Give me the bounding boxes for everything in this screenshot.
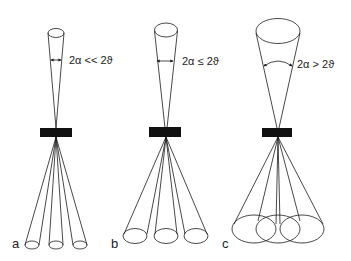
sample-block-b	[149, 127, 181, 137]
panel-label-b: b	[111, 236, 118, 251]
panel-label-c: c	[222, 236, 229, 251]
sample-block-c	[262, 128, 292, 137]
incident-beam-cone-b	[155, 23, 178, 128]
diffracted-cones-b	[123, 137, 208, 244]
incident-beam-cone-a	[48, 29, 64, 129]
beam-divergence-diagram: 2α << 2ϑ a 2α ≤ 2ϑ	[0, 0, 351, 261]
panel-a: 2α << 2ϑ a	[12, 29, 113, 252]
diffracted-cones-c	[232, 137, 324, 243]
diffracted-cones-a	[25, 137, 87, 249]
panel-b: 2α ≤ 2ϑ b	[111, 23, 219, 251]
angle-label-c: 2α > 2ϑ	[297, 58, 334, 70]
panel-c: 2α > 2ϑ c	[222, 19, 334, 252]
angle-label-a: 2α << 2ϑ	[69, 54, 113, 66]
panel-label-a: a	[12, 236, 20, 251]
incident-beam-cone-c	[256, 19, 300, 129]
angle-arrow-c	[264, 61, 292, 66]
angle-label-b: 2α ≤ 2ϑ	[182, 55, 219, 67]
sample-block-a	[40, 128, 72, 137]
